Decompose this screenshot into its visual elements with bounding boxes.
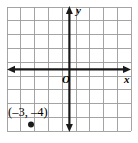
origin-label: O (62, 74, 70, 85)
point-coordinate-label: (–3, –4) (8, 106, 48, 119)
plotted-point (28, 122, 34, 128)
y-axis-label: y (76, 5, 81, 16)
coordinate-plane-canvas (0, 0, 138, 143)
x-axis-label: x (124, 74, 130, 85)
coordinate-plane-figure: y x O (–3, –4) (0, 0, 138, 143)
